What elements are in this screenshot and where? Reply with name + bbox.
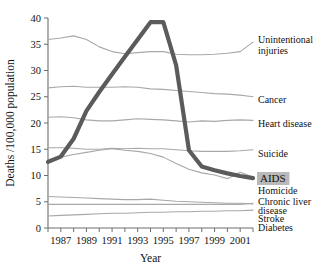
series-label-text: Suicide: [258, 148, 289, 159]
y-tick-label: 10: [31, 170, 42, 181]
y-tick-label: 40: [31, 13, 42, 24]
y-tick-label: 0: [36, 223, 41, 234]
series-label-text: Heart disease: [258, 118, 312, 129]
x-tick-label: 1995: [153, 235, 174, 246]
y-tick-label: 30: [31, 65, 42, 76]
series-label-text: injuries: [258, 45, 288, 56]
series-line-unintentional-injuries: [48, 36, 253, 55]
x-tick-label: 1987: [50, 235, 71, 246]
series-label-text: Homicide: [258, 185, 298, 196]
series-label-text: Unintentional: [258, 34, 313, 45]
x-axis-title: Year: [140, 252, 161, 264]
x-tick-label: 1997: [178, 235, 199, 246]
y-tick-label: 15: [31, 144, 42, 155]
series-line-diabetes: [48, 210, 253, 216]
series-line-aids: [48, 22, 253, 178]
series-label-text: AIDS: [260, 172, 286, 184]
x-tick-label: 2001: [230, 235, 251, 246]
chart-figure: 0510152025303540198719891991199319951997…: [0, 0, 330, 270]
y-tick-label: 20: [31, 118, 42, 129]
axis-titles: YearDeaths /100,000 population: [4, 59, 161, 264]
series-label-text: Cancer: [258, 94, 287, 105]
series-lines: [48, 22, 253, 216]
series-line-heart-disease: [48, 117, 253, 122]
x-tick-label: 1991: [102, 235, 123, 246]
x-tick-label: 1999: [204, 235, 225, 246]
series-line-cancer: [48, 86, 253, 97]
y-axis-title: Deaths /100,000 population: [4, 59, 17, 187]
x-tick-label: 1993: [127, 235, 148, 246]
y-tick-label: 5: [36, 196, 41, 207]
series-labels: UnintentionalinjuriesCancerHeart disease…: [257, 34, 313, 233]
line-chart: 0510152025303540198719891991199319951997…: [0, 0, 330, 270]
y-tick-label: 25: [31, 91, 42, 102]
series-label-text: Diabetes: [258, 222, 293, 233]
series-line-chronic-liver-disease: [48, 197, 253, 204]
series-line-suicide: [48, 148, 253, 152]
y-tick-label: 35: [31, 39, 42, 50]
x-tick-label: 1989: [76, 235, 97, 246]
